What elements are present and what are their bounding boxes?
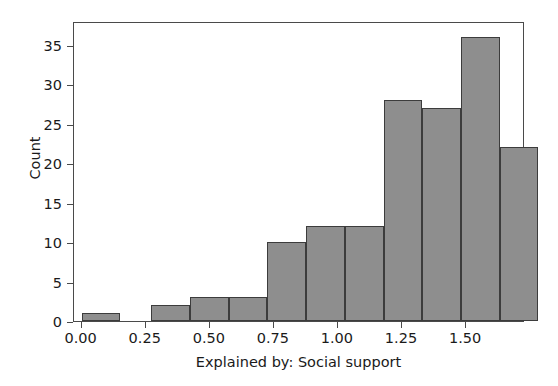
x-tick-label: 0.75 <box>257 331 289 346</box>
y-tick-label: 5 <box>53 276 62 291</box>
histogram-bar <box>229 297 268 321</box>
y-tick-label: 30 <box>44 78 62 93</box>
histogram-bar <box>500 147 539 321</box>
x-tick-mark <box>465 322 466 328</box>
y-tick-mark <box>67 204 73 205</box>
y-tick-mark <box>67 46 73 47</box>
x-tick-mark <box>209 322 210 328</box>
y-tick-label: 35 <box>44 39 62 54</box>
y-tick-mark <box>67 125 73 126</box>
y-tick-mark <box>67 243 73 244</box>
y-tick-mark <box>67 283 73 284</box>
x-tick-label: 0.50 <box>193 331 225 346</box>
y-tick-label: 0 <box>53 315 62 330</box>
histogram-bar <box>151 305 190 321</box>
x-tick-mark <box>273 322 274 328</box>
y-tick-mark <box>67 85 73 86</box>
x-tick-mark <box>337 322 338 328</box>
histogram-bar <box>461 37 500 321</box>
histogram-bar <box>422 108 461 321</box>
x-tick-mark <box>81 322 82 328</box>
histogram-figure: 05101520253035 0.000.250.500.751.001.251… <box>0 0 558 386</box>
x-tick-label: 1.50 <box>449 331 481 346</box>
y-tick-mark <box>67 322 73 323</box>
x-axis-label: Explained by: Social support <box>73 354 524 370</box>
x-tick-mark <box>145 322 146 328</box>
y-tick-label: 20 <box>44 157 62 172</box>
y-tick-label: 15 <box>44 197 62 212</box>
y-tick-label: 10 <box>44 236 62 251</box>
histogram-bar <box>306 226 345 321</box>
x-tick-label: 0.00 <box>65 331 97 346</box>
histogram-bar <box>190 297 229 321</box>
x-tick-label: 0.25 <box>129 331 161 346</box>
histogram-bar <box>267 242 306 321</box>
x-tick-label: 1.25 <box>385 331 417 346</box>
histogram-bar <box>384 100 423 321</box>
x-tick-mark <box>401 322 402 328</box>
y-axis-label: Count <box>27 118 43 198</box>
histogram-bar <box>82 313 121 321</box>
y-tick-mark <box>67 164 73 165</box>
histogram-bar <box>345 226 384 321</box>
bars-layer <box>74 23 523 321</box>
plot-area <box>73 22 524 322</box>
y-tick-label: 25 <box>44 118 62 133</box>
x-tick-label: 1.00 <box>321 331 353 346</box>
